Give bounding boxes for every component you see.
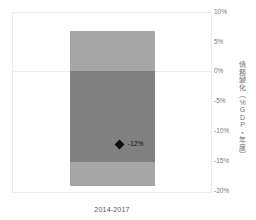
y-tick-5: 5% xyxy=(214,38,223,46)
bar-whisker-lower xyxy=(70,162,155,186)
y-tick-10: 10% xyxy=(214,8,227,16)
y-tick-0: 0% xyxy=(214,67,223,75)
bar-box-body xyxy=(70,71,155,162)
x-tick-label-2014-2017: 2014-2017 xyxy=(94,206,129,213)
median-value-label: -12% xyxy=(128,140,144,147)
y-tick-m20: -20% xyxy=(214,187,229,195)
plot-area: -12% xyxy=(12,12,212,193)
x-axis-tick-labels: 2014-2017 xyxy=(12,198,212,216)
y-tick-m15: -15% xyxy=(214,157,229,165)
y-tick-m10: -10% xyxy=(214,127,229,135)
bar-whisker-upper xyxy=(70,31,155,71)
chart-container: -12% 10% 5% 0% -5% -10% -15% -20% 債務變化（%… xyxy=(0,0,256,220)
y-axis-title: 債務變化（%GDP・年度） xyxy=(232,0,252,220)
y-axis-title-text: 債務變化（%GDP・年度） xyxy=(237,61,247,159)
y-tick-m5: -5% xyxy=(214,97,226,105)
